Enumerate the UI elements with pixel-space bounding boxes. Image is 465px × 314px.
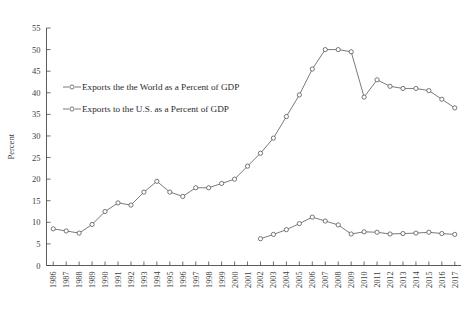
series-data-point: [323, 219, 327, 223]
x-axis: 1986198719881989199019911992199319941995…: [47, 262, 462, 288]
x-tick-label: 2014: [412, 272, 421, 288]
x-tick-label: 2001: [244, 272, 253, 288]
x-tick-label: 2005: [295, 272, 304, 288]
chart-series-group: [51, 47, 457, 240]
series-data-point: [310, 67, 314, 71]
series-data-point: [220, 181, 224, 185]
series-line-path: [260, 217, 454, 239]
series-data-point: [323, 47, 327, 51]
series-data-point: [375, 230, 379, 234]
series-data-point: [440, 231, 444, 235]
series-data-point: [362, 95, 366, 99]
series-data-point: [168, 190, 172, 194]
x-tick-label: 2017: [451, 272, 460, 288]
series-data-point: [258, 237, 262, 241]
x-tick-label: 2002: [256, 272, 265, 288]
chart-series: [51, 47, 457, 235]
chart-container: 0510152025303540455055 19861987198819891…: [0, 0, 465, 314]
series-data-point: [362, 230, 366, 234]
x-tick-label: 1996: [179, 272, 188, 288]
x-tick-label: 1987: [62, 272, 71, 288]
legend-marker-icon: [70, 107, 74, 111]
y-tick-label: 30: [32, 131, 41, 141]
x-tick-label: 1989: [88, 272, 97, 288]
series-data-point: [349, 50, 353, 54]
series-data-point: [258, 151, 262, 155]
x-tick-label: 2010: [360, 272, 369, 288]
series-data-point: [375, 78, 379, 82]
x-tick-label: 2011: [373, 272, 382, 288]
series-data-point: [427, 89, 431, 93]
x-tick-label: 2006: [308, 272, 317, 288]
x-tick-label: 1993: [140, 272, 149, 288]
series-data-point: [77, 231, 81, 235]
y-axis-title: Percent: [6, 133, 16, 159]
series-data-point: [310, 215, 314, 219]
x-tick-label: 2000: [231, 272, 240, 288]
x-tick-label: 1999: [218, 272, 227, 288]
x-tick-label: 2012: [386, 272, 395, 288]
legend-item: Exports to the U.S. as a Percent of GDP: [63, 104, 229, 114]
series-data-point: [194, 186, 198, 190]
legend-item: Exports the the World as a Percent of GD…: [63, 82, 239, 92]
legend-label: Exports to the U.S. as a Percent of GDP: [82, 104, 229, 114]
series-data-point: [103, 209, 107, 213]
y-tick-label: 15: [32, 196, 41, 206]
series-data-point: [297, 93, 301, 97]
legend-marker-icon: [70, 85, 74, 89]
x-tick-label: 1997: [192, 272, 201, 288]
series-data-point: [271, 136, 275, 140]
y-tick-label: 0: [36, 261, 40, 271]
chart-series: [258, 215, 456, 241]
x-tick-label: 1995: [166, 272, 175, 288]
series-data-point: [297, 222, 301, 226]
x-tick-label: 2004: [282, 272, 291, 288]
x-tick-label: 2013: [399, 272, 408, 288]
series-data-point: [116, 201, 120, 205]
x-tick-label: 1994: [153, 272, 162, 288]
y-tick-label: 55: [32, 23, 41, 33]
series-data-point: [453, 232, 457, 236]
series-data-point: [142, 190, 146, 194]
x-tick-label: 2008: [334, 272, 343, 288]
y-axis-title-text: Percent: [6, 133, 16, 159]
x-tick-label: 2015: [425, 272, 434, 288]
series-data-point: [440, 97, 444, 101]
y-tick-label: 50: [32, 45, 41, 55]
x-tick-label: 2009: [347, 272, 356, 288]
line-chart: 0510152025303540455055 19861987198819891…: [0, 0, 465, 314]
y-tick-label: 25: [32, 153, 41, 163]
series-data-point: [401, 231, 405, 235]
series-data-point: [401, 86, 405, 90]
y-axis: 0510152025303540455055: [32, 23, 51, 271]
x-tick-label: 2007: [321, 272, 330, 288]
x-tick-label: 1998: [205, 272, 214, 288]
x-tick-label: 2016: [438, 272, 447, 288]
legend-label: Exports the the World as a Percent of GD…: [82, 82, 239, 92]
x-tick-label: 1986: [49, 272, 58, 288]
series-data-point: [336, 223, 340, 227]
y-tick-label: 40: [32, 88, 41, 98]
series-data-point: [90, 222, 94, 226]
series-data-point: [284, 114, 288, 118]
series-data-point: [64, 229, 68, 233]
y-tick-label: 35: [32, 109, 41, 119]
series-data-point: [414, 231, 418, 235]
series-data-point: [453, 106, 457, 110]
series-data-point: [349, 232, 353, 236]
series-data-point: [427, 230, 431, 234]
series-data-point: [245, 164, 249, 168]
series-data-point: [388, 84, 392, 88]
series-data-point: [271, 232, 275, 236]
y-tick-label: 10: [32, 217, 41, 227]
y-tick-label: 45: [32, 66, 41, 76]
series-data-point: [336, 47, 340, 51]
chart-legend: Exports the the World as a Percent of GD…: [63, 82, 239, 114]
x-tick-label: 1990: [101, 272, 110, 288]
series-line-path: [53, 50, 455, 234]
x-tick-label: 1992: [127, 272, 136, 288]
series-data-point: [388, 232, 392, 236]
series-data-point: [181, 194, 185, 198]
x-tick-label: 1991: [114, 272, 123, 288]
x-tick-label: 1988: [75, 272, 84, 288]
